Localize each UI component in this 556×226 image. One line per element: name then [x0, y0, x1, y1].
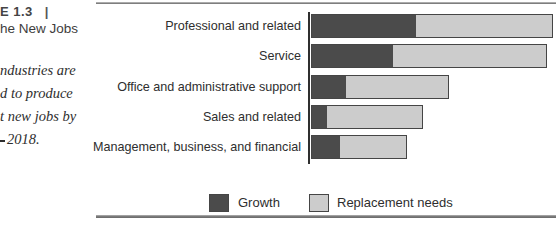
- stacked-bar: [311, 75, 449, 99]
- category-label: Management, business, and financial: [93, 135, 301, 159]
- replacement-needs-legend-label: Replacement needs: [337, 193, 453, 213]
- stacked-bar: [311, 105, 423, 129]
- category-label: Professional and related: [165, 14, 301, 38]
- category-axis-line: [308, 12, 310, 164]
- bottom-rule: [96, 215, 556, 218]
- growth-segment: [312, 45, 393, 67]
- replacement-needs-swatch: [309, 194, 329, 212]
- stacked-bar: [311, 14, 553, 38]
- figure-panel: E 1.3| he New Jobs ndustries are d to pr…: [0, 0, 556, 226]
- stacked-bar: [311, 44, 547, 68]
- growth-segment: [312, 106, 327, 128]
- growth-segment: [312, 136, 340, 158]
- category-label: Sales and related: [203, 105, 301, 129]
- growth-segment: [312, 76, 346, 98]
- category-label: Service: [259, 44, 301, 68]
- growth-legend-label: Growth: [238, 193, 280, 213]
- growth-swatch: [209, 194, 229, 212]
- stacked-bar: [311, 135, 407, 159]
- legend: Growth Replacement needs: [0, 193, 556, 213]
- growth-segment: [312, 15, 416, 37]
- stacked-bar-chart: Professional and relatedServiceOffice an…: [0, 0, 556, 170]
- category-axis-labels: Professional and relatedServiceOffice an…: [0, 0, 301, 170]
- category-label: Office and administrative support: [117, 75, 301, 99]
